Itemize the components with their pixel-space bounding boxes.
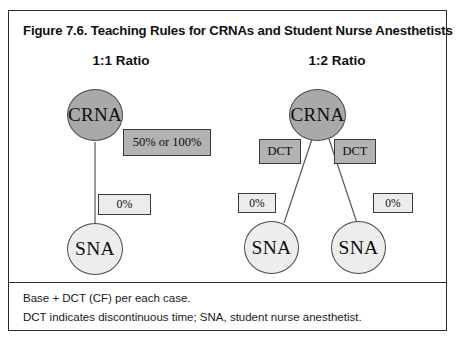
label-dct-right[interactable]: DCT [334,139,376,164]
node-sna-panel2-left[interactable]: SNA [244,221,299,274]
figure-screenshot: Figure 7.6. Teaching Rules for CRNAs and… [0,0,456,341]
node-crna-panel2[interactable]: CRNA [289,89,346,141]
label-dct-left[interactable]: DCT [259,139,301,164]
footnote-base-dct: Base + DCT (CF) per each case. [23,292,191,304]
label-percent-zero-panel2-left[interactable]: 0% [238,193,276,213]
node-sna-panel2-right[interactable]: SNA [331,221,386,274]
label-percent-zero-panel1[interactable]: 0% [98,194,151,215]
label-percent-zero-panel2-right[interactable]: 0% [373,193,413,213]
node-crna-panel1[interactable]: CRNA [67,89,123,141]
figure-frame: Figure 7.6. Teaching Rules for CRNAs and… [8,10,447,331]
node-sna-panel1[interactable]: SNA [67,223,123,275]
footnote-abbreviations: DCT indicates discontinuous time; SNA, s… [23,311,362,323]
connector-lines [9,11,448,332]
footer-divider [9,282,446,283]
label-percent-50-or-100[interactable]: 50% or 100% [123,129,211,156]
